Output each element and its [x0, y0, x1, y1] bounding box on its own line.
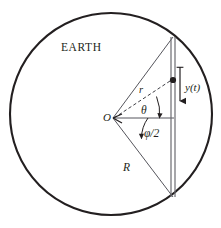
phi-half-angle-label: φ/2 [144, 128, 159, 140]
particle-dot [170, 77, 176, 83]
radius-small-label: r [139, 85, 143, 96]
displacement-label: y(t) [185, 82, 200, 93]
radius-big-label: R [123, 162, 130, 174]
theta-angle-label: θ [141, 105, 147, 117]
earth-label: EARTH [61, 42, 102, 54]
earth-tunnel-diagram: EARTH O r R θ φ/2 y(t) [0, 0, 221, 228]
earth-circle [10, 13, 212, 215]
center-point-label: O [103, 112, 111, 123]
